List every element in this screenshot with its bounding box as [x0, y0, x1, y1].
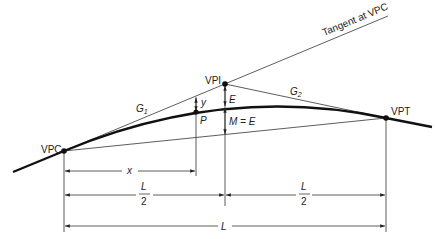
- half-l-right-numerator: L: [301, 181, 307, 192]
- full-l-label: L: [221, 221, 227, 232]
- g1-label: G1: [136, 103, 148, 115]
- x-label: x: [126, 165, 133, 176]
- vpt-point: [383, 115, 389, 121]
- m-equals-e-label: M = E: [229, 116, 256, 127]
- p-label: P: [200, 115, 207, 126]
- half-l-right-denominator: 2: [301, 196, 307, 207]
- half-l-left-numerator: L: [141, 181, 147, 192]
- vertical-curve: [13, 107, 432, 172]
- half-l-left-denominator: 2: [141, 196, 147, 207]
- p-point: [193, 109, 198, 114]
- vpi-label: VPI: [205, 75, 221, 86]
- g2-label: G2: [290, 86, 302, 98]
- vpi-point: [222, 81, 228, 87]
- e-label: E: [229, 94, 236, 105]
- vertical-curve-diagram: Tangent at VPC VPC VPI VPT P G1 G2 y E M…: [0, 0, 435, 239]
- y-label: y: [200, 97, 207, 108]
- vpt-label: VPT: [391, 106, 410, 117]
- vpc-label: VPC: [41, 144, 62, 155]
- vpc-point: [61, 148, 67, 154]
